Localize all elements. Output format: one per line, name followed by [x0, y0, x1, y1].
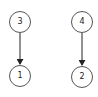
node-2: 2 — [71, 66, 93, 88]
node-1: 1 — [9, 65, 31, 87]
node-4: 4 — [71, 11, 93, 33]
node-1-label: 1 — [17, 72, 22, 80]
node-3: 3 — [9, 11, 31, 33]
node-3-label: 3 — [17, 18, 22, 26]
node-4-label: 4 — [79, 18, 84, 26]
graph-diagram: 3 1 4 2 — [0, 0, 98, 97]
node-2-label: 2 — [79, 73, 84, 81]
